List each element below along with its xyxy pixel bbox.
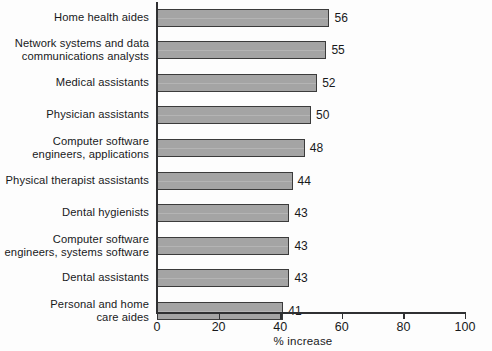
bar-highlight	[158, 181, 292, 182]
bar-value-label: 48	[310, 141, 323, 155]
x-tick-label: 0	[154, 320, 161, 334]
x-axis-title: % increase	[0, 335, 492, 347]
x-tick-label: 80	[396, 320, 410, 334]
bar-chart: Home health aidesNetwork systems and dat…	[0, 0, 492, 351]
bar	[157, 204, 289, 222]
x-tick-label: 40	[273, 320, 287, 334]
x-axis-title-text: % increase	[274, 335, 333, 347]
bar	[157, 302, 283, 320]
bar-highlight	[158, 83, 316, 84]
category-label: Dental hygienists	[62, 206, 149, 219]
category-label-column: Home health aidesNetwork systems and dat…	[0, 0, 149, 351]
category-label: Network systems and data communications …	[15, 37, 149, 63]
category-label: Medical assistants	[56, 76, 149, 89]
bar-value-label: 44	[298, 174, 311, 188]
bar	[157, 106, 311, 124]
bar	[157, 172, 293, 190]
bar-highlight	[158, 50, 325, 51]
x-tick	[465, 313, 466, 319]
bar-highlight	[158, 115, 310, 116]
bar-value-label: 41	[288, 304, 301, 318]
x-tick	[219, 313, 220, 319]
category-label: Home health aides	[54, 11, 149, 24]
bar	[157, 139, 305, 157]
bar-value-label: 52	[322, 76, 335, 90]
bar-value-label: 55	[331, 43, 344, 57]
bar	[157, 269, 289, 287]
plot-area: 56555250484443434341	[157, 0, 465, 313]
category-label: Personal and home care aides	[50, 298, 149, 324]
bar-highlight	[158, 278, 288, 279]
bar	[157, 41, 326, 59]
y-axis-line	[156, 2, 158, 313]
bar-value-label: 56	[334, 11, 347, 25]
x-tick-label: 20	[212, 320, 226, 334]
bar-value-label: 43	[294, 239, 307, 253]
category-label: Computer software engineers, application…	[32, 135, 149, 161]
bar-highlight	[158, 246, 288, 247]
bar-highlight	[158, 18, 328, 19]
bar-value-label: 43	[294, 271, 307, 285]
bar-value-label: 50	[316, 108, 329, 122]
x-tick-label: 100	[455, 320, 476, 334]
x-axis-line	[156, 312, 466, 314]
x-tick	[157, 313, 158, 319]
bar-value-label: 43	[294, 206, 307, 220]
bar-highlight	[158, 148, 304, 149]
bar-highlight	[158, 213, 288, 214]
x-tick-label: 60	[335, 320, 349, 334]
bar	[157, 74, 317, 92]
category-label: Dental assistants	[62, 272, 149, 285]
bar	[157, 9, 329, 27]
x-tick	[403, 313, 404, 319]
x-tick	[342, 313, 343, 319]
category-label: Physical therapist assistants	[6, 174, 149, 187]
category-label: Physician assistants	[46, 109, 149, 122]
category-label: Computer software engineers, systems sof…	[5, 232, 149, 258]
x-tick	[280, 313, 281, 319]
bar	[157, 237, 289, 255]
